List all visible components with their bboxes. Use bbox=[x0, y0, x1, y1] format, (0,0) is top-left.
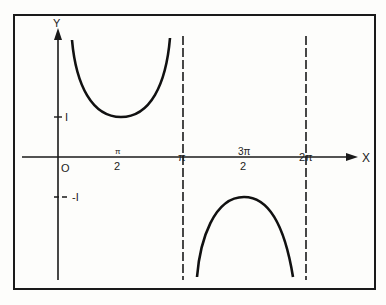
x-tick-pi-over-2-num: π bbox=[115, 147, 121, 156]
cosec-graph: X Y O I -I π 2 π 3π 2 2π bbox=[0, 0, 386, 305]
x-axis-arrow-icon bbox=[346, 153, 358, 161]
y-tick-label-neg1: -I bbox=[72, 191, 79, 203]
chart-frame bbox=[14, 15, 375, 289]
curve-branch-2 bbox=[197, 197, 293, 277]
y-tick-label-1: I bbox=[65, 111, 68, 123]
y-axis-label: Y bbox=[53, 17, 61, 29]
curve-branch-1 bbox=[72, 38, 170, 117]
origin-label: O bbox=[61, 162, 70, 174]
x-axis-label: X bbox=[362, 151, 370, 165]
x-tick-pi-over-2-den: 2 bbox=[114, 160, 120, 172]
x-tick-3pi-over-2-num: 3π bbox=[238, 146, 251, 157]
x-tick-pi: π bbox=[178, 151, 186, 163]
x-tick-3pi-over-2-den: 2 bbox=[240, 160, 246, 172]
y-axis-arrow-icon bbox=[54, 28, 62, 40]
